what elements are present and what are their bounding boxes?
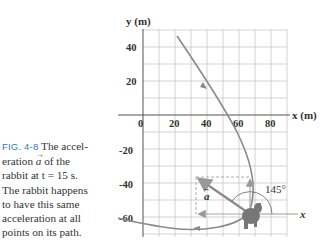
angle-label: 145° bbox=[265, 183, 286, 195]
svg-text:20: 20 bbox=[126, 76, 137, 87]
svg-text:20: 20 bbox=[169, 118, 180, 129]
svg-text:→: → bbox=[203, 186, 209, 194]
svg-text:0: 0 bbox=[138, 118, 143, 129]
svg-text:-20: -20 bbox=[119, 145, 133, 156]
svg-text:40: 40 bbox=[126, 42, 137, 53]
y-axis-label: y (m) bbox=[126, 15, 151, 28]
svg-text:-40: -40 bbox=[119, 179, 133, 190]
path-direction-arrow bbox=[200, 82, 207, 89]
svg-text:40: 40 bbox=[201, 118, 212, 129]
svg-text:x: x bbox=[299, 208, 306, 220]
svg-text:80: 80 bbox=[265, 118, 276, 129]
rabbit-icon bbox=[242, 203, 262, 229]
grid bbox=[143, 29, 287, 237]
trajectory-chart: y (m) x (m) 0 20 40 60 80 40 20 -20 -40 … bbox=[0, 0, 324, 250]
x-axis-label: x (m) bbox=[292, 109, 317, 122]
